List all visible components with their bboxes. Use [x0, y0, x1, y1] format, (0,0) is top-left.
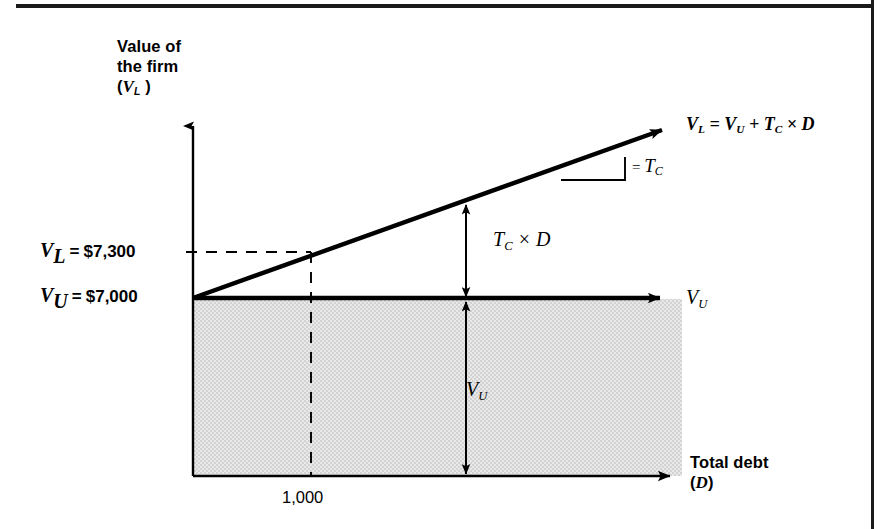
slope-sub: C — [655, 164, 663, 178]
slope-label: = TC — [632, 154, 663, 179]
vl-symbol: V — [40, 239, 53, 261]
eq-plus: + — [744, 114, 763, 134]
eq-equals: = — [705, 114, 724, 134]
vu-line: V — [686, 286, 698, 308]
vl-sloped-line — [193, 130, 662, 298]
vu-line-label: VU — [686, 285, 707, 312]
vu-mid-sub: U — [478, 389, 487, 403]
slope-equals: = — [632, 159, 644, 175]
eq-d: D — [802, 114, 815, 134]
vu-line-sub: U — [698, 297, 707, 311]
vl-symbol-sub: L — [53, 245, 65, 267]
tc-times-d-label: TC × D — [493, 227, 550, 254]
x-title-paren-close: ) — [708, 473, 714, 491]
slope-t: T — [644, 155, 655, 176]
eq-vl-sub: L — [698, 123, 705, 135]
eq-vl: V — [686, 114, 698, 134]
x-axis-title: Total debt (D) — [690, 452, 769, 494]
vu-symbol-sub: U — [53, 290, 67, 312]
x-tick-label-1000: 1,000 — [282, 487, 323, 507]
vu-span-label: VU — [466, 377, 487, 404]
y-axis-title-line1: Value of — [117, 36, 181, 56]
tcd-t: T — [493, 228, 504, 250]
tcd-sub: C — [504, 239, 512, 253]
y-title-paren-close: ) — [141, 77, 151, 95]
tcd-rest: × D — [513, 228, 551, 250]
x-axis-title-line2: (D) — [690, 472, 769, 494]
vl-equals: = — [66, 242, 84, 261]
eq-times: × — [782, 114, 801, 134]
vl-value-label: VL=$7,300 — [40, 238, 136, 268]
vu-amount: $7,000 — [86, 287, 138, 306]
vu-symbol: V — [40, 284, 53, 306]
y-axis-title-line2: the firm — [117, 56, 181, 76]
line-equation-label: VL = VU + TC × D — [686, 114, 815, 137]
figure-container: Value of the firm (VL ) VL = VU + TC × D… — [0, 0, 880, 529]
y-title-symbol: V — [123, 77, 134, 96]
vu-mid: V — [466, 378, 478, 400]
vu-value-label: VU=$7,000 — [40, 283, 138, 313]
y-axis-title-line3: (VL ) — [117, 76, 181, 99]
shaded-vu-region — [193, 299, 682, 476]
x-axis-title-line1: Total debt — [690, 452, 769, 472]
eq-vu: V — [724, 114, 736, 134]
vu-equals: = — [68, 287, 86, 306]
x-title-symbol: D — [696, 473, 708, 492]
vl-amount: $7,300 — [84, 242, 136, 261]
y-axis-title: Value of the firm (VL ) — [117, 36, 181, 99]
eq-tc: T — [764, 114, 775, 134]
